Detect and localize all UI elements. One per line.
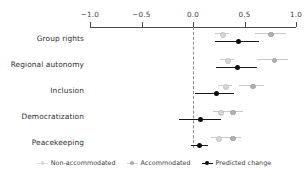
x-tick-label-4: 1.0 bbox=[290, 10, 302, 19]
x-tick-4 bbox=[296, 22, 297, 27]
legend-label: Non-accommodated bbox=[51, 159, 116, 167]
data-point bbox=[214, 91, 219, 96]
data-point bbox=[236, 39, 241, 44]
category-label-4: Peacekeeping bbox=[32, 138, 84, 147]
x-tick-label-3: 0.5 bbox=[238, 10, 250, 19]
legend-item-2[interactable]: Predicted change bbox=[202, 159, 272, 167]
data-point bbox=[197, 143, 202, 148]
legend-label: Accommodated bbox=[141, 159, 191, 167]
x-tick-1 bbox=[142, 22, 143, 27]
legend-item-1[interactable]: Accommodated bbox=[127, 159, 191, 167]
coefficient-plot: −1.0−0.50.00.51.0 Group rightsRegional a… bbox=[0, 0, 308, 178]
legend-label: Predicted change bbox=[216, 159, 272, 167]
data-point bbox=[230, 110, 236, 116]
category-label-2: Inclusion bbox=[50, 86, 84, 95]
data-point bbox=[250, 84, 256, 90]
category-label-0: Group rights bbox=[37, 34, 84, 43]
data-point bbox=[230, 136, 236, 142]
category-label-1: Regional autonomy bbox=[11, 60, 84, 69]
category-label-3: Democratization bbox=[21, 112, 84, 121]
x-tick-label-1: −0.5 bbox=[132, 10, 150, 19]
x-tick-label-2: 0.0 bbox=[187, 10, 199, 19]
legend-marker-icon bbox=[37, 160, 48, 166]
x-tick-0 bbox=[90, 22, 91, 27]
legend-marker-icon bbox=[127, 160, 138, 166]
data-point bbox=[268, 32, 274, 38]
legend-item-0[interactable]: Non-accommodated bbox=[37, 159, 116, 167]
data-point bbox=[220, 32, 226, 38]
x-tick-3 bbox=[245, 22, 246, 27]
x-tick-label-0: −1.0 bbox=[81, 10, 99, 19]
data-point bbox=[225, 58, 231, 64]
zero-reference-line bbox=[193, 27, 194, 148]
data-point bbox=[198, 117, 203, 122]
data-point bbox=[272, 58, 278, 64]
data-point bbox=[223, 84, 229, 90]
legend-marker-icon bbox=[202, 160, 213, 166]
data-point bbox=[235, 65, 240, 70]
chart-legend: Non-accommodatedAccommodatedPredicted ch… bbox=[0, 159, 308, 167]
data-point bbox=[216, 136, 222, 142]
